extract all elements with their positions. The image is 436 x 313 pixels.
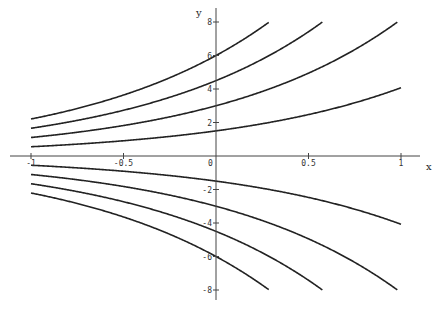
x-tick-label: -1 [26,159,36,168]
y-tick-label: 2 [207,119,212,128]
y-tick-label: -8 [202,286,212,295]
y-tick-label: 8 [207,18,212,27]
x-tick-label: -0.5 [114,159,133,168]
x-axis-label: x [426,161,432,172]
y-tick-label: -6 [202,253,212,262]
y-tick-label: -4 [202,219,212,228]
x-tick-label: 0.5 [301,159,316,168]
y-tick-label: -2 [202,186,212,195]
curve-c-3 [31,22,397,137]
axes-group: x y [10,7,432,300]
chart: x y -1-0.500.51 8642-2-4-6-8 [0,0,436,313]
curve-c-6 [31,193,269,290]
y-axis-label: y [195,7,202,18]
y-tick-label: 6 [207,52,212,61]
x-tick-label: 0 [208,159,213,168]
curve-c-6 [31,22,269,119]
x-tick-label: 1 [399,159,404,168]
curve-c-3 [31,174,397,289]
x-ticks-group: -1-0.500.51 [26,153,403,168]
y-tick-label: 4 [207,85,212,94]
